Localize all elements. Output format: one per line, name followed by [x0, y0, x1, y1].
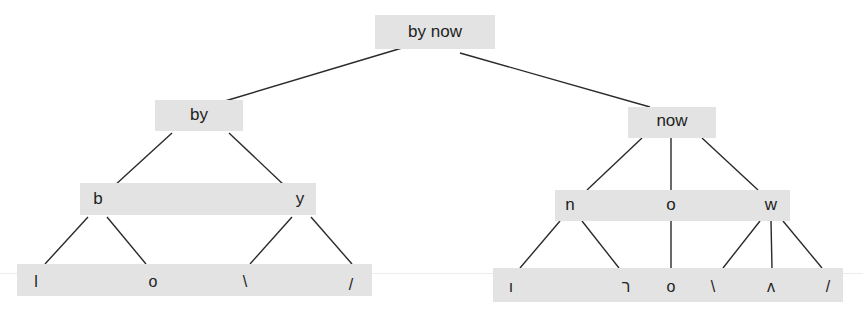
edge-root-by	[225, 48, 402, 101]
gesture-w-3: /	[826, 277, 830, 297]
edge-w-3	[783, 221, 822, 268]
edge-w-2	[771, 221, 772, 268]
gesture-row-by	[17, 264, 372, 296]
edge-b-l	[45, 217, 88, 264]
segment-row-by	[80, 183, 316, 215]
gesture-o-1: o	[667, 277, 676, 297]
edge-root-now	[460, 53, 650, 107]
edge-now-n	[587, 138, 642, 190]
edge-y-slash	[311, 217, 352, 264]
node-y-label: y	[296, 189, 305, 209]
gesture-b-2: o	[149, 272, 158, 292]
node-b-label: b	[93, 189, 102, 209]
edge-now-w	[702, 138, 758, 190]
node-w-label: w	[765, 195, 777, 215]
edge-b-o	[107, 217, 146, 264]
tree-diagram: by now by now b y n o w l o \ / ı ר o \ …	[0, 0, 863, 320]
gesture-n-1: ı	[509, 277, 513, 297]
gesture-n-2: ר	[622, 277, 631, 297]
edge-by-b	[114, 133, 172, 186]
node-n-label: n	[565, 195, 574, 215]
gesture-y-2: /	[349, 275, 353, 295]
edge-w-1	[723, 221, 760, 268]
edge-n-1	[520, 221, 560, 268]
edge-y-backslash	[250, 217, 292, 264]
gesture-b-1: l	[34, 272, 38, 292]
node-now-label: now	[656, 111, 687, 131]
node-by-label: by	[190, 105, 208, 125]
gesture-w-1: \	[711, 277, 715, 297]
edge-by-y	[229, 133, 285, 186]
node-o-label: o	[666, 195, 675, 215]
gesture-w-2: ʌ	[767, 277, 775, 297]
gesture-y-1: \	[243, 272, 247, 292]
root-label: by now	[408, 22, 462, 42]
edge-n-2	[582, 221, 619, 268]
